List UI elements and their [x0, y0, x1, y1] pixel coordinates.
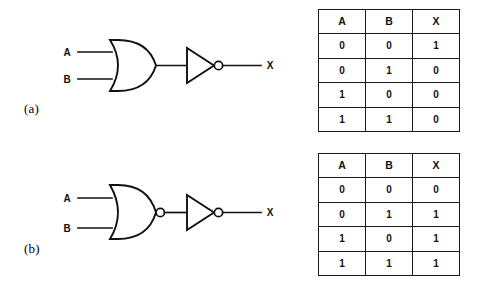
input-label-a: A	[63, 47, 70, 58]
table-row: 0 0 1	[319, 34, 460, 58]
inverter-bubble	[214, 208, 222, 216]
cell-b: 0	[366, 227, 413, 251]
cell-a: 0	[319, 58, 366, 82]
circuit-diagram-b: A B X	[0, 140, 310, 281]
cell-x: 1	[413, 34, 460, 58]
input-label-b: B	[63, 223, 70, 234]
table-header-row: A B X	[319, 10, 460, 34]
output-label-x: X	[267, 207, 274, 218]
or-gate-body	[110, 40, 156, 91]
column-header-b: B	[366, 154, 413, 178]
column-header-x: X	[413, 154, 460, 178]
cell-b: 1	[366, 251, 413, 275]
table-row: 0 0 0	[319, 178, 460, 202]
cell-x: 0	[413, 107, 460, 131]
cell-a: 0	[319, 202, 366, 226]
table-row: 1 0 1	[319, 227, 460, 251]
input-label-a: A	[63, 193, 70, 204]
inverter-triangle	[187, 48, 214, 83]
table-row: 1 1 1	[319, 251, 460, 275]
figure-panel-b: (b) A B X	[0, 140, 310, 280]
input-label-b: B	[63, 74, 70, 85]
nor-gate-body	[110, 185, 156, 239]
cell-a: 1	[319, 83, 366, 107]
inverter-triangle	[187, 195, 214, 230]
nor-gate-bubble	[156, 208, 164, 216]
cell-x: 0	[413, 83, 460, 107]
cell-a: 1	[319, 227, 366, 251]
column-header-b: B	[366, 10, 413, 34]
circuit-diagram-a: A B X	[0, 0, 310, 140]
truth-table-a: A B X 0 0 1 0 1 0 1 0 0 1 1 0	[318, 9, 460, 132]
cell-b: 1	[366, 202, 413, 226]
truth-table-b: A B X 0 0 0 0 1 1 1 0 1 1 1 1	[318, 153, 460, 276]
cell-x: 0	[413, 178, 460, 202]
cell-a: 0	[319, 178, 366, 202]
cell-a: 1	[319, 251, 366, 275]
table-header-row: A B X	[319, 154, 460, 178]
cell-x: 1	[413, 251, 460, 275]
column-header-a: A	[319, 154, 366, 178]
inverter-bubble	[214, 61, 222, 69]
table-row: 0 1 1	[319, 202, 460, 226]
cell-x: 1	[413, 227, 460, 251]
cell-b: 1	[366, 107, 413, 131]
cell-b: 0	[366, 178, 413, 202]
cell-a: 1	[319, 107, 366, 131]
output-label-x: X	[267, 60, 274, 71]
column-header-a: A	[319, 10, 366, 34]
cell-b: 1	[366, 58, 413, 82]
cell-x: 0	[413, 58, 460, 82]
cell-a: 0	[319, 34, 366, 58]
cell-b: 0	[366, 34, 413, 58]
table-row: 1 1 0	[319, 107, 460, 131]
table-row: 0 1 0	[319, 58, 460, 82]
cell-b: 0	[366, 83, 413, 107]
column-header-x: X	[413, 10, 460, 34]
table-row: 1 0 0	[319, 83, 460, 107]
figure-panel-a: (a) A B X	[0, 0, 310, 140]
cell-x: 1	[413, 202, 460, 226]
